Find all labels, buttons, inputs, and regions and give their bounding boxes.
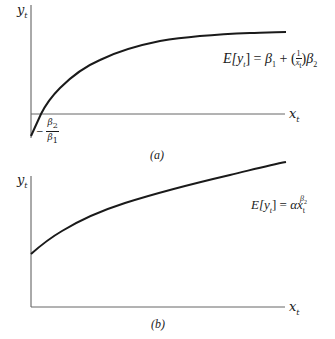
panel-b-y-axis-label: yt — [17, 172, 28, 190]
panel-a-equation: E[yt] = β1 + (1xt)β2 — [223, 50, 317, 70]
panel-b-caption: (b) — [151, 317, 165, 332]
panel-a-y-axis-label: yt — [17, 2, 28, 20]
panel-b-x-axis-label: xt — [289, 299, 300, 317]
panel-b-curve — [31, 162, 286, 254]
panel-a-x-axis-label: xt — [289, 106, 300, 124]
panel-a-intercept-label: − β2 β1 — [36, 117, 59, 146]
panel-b-equation: E[yt] = αxtβ2 — [251, 197, 312, 215]
panel-a-caption: (a) — [150, 148, 164, 163]
panel-a-curve — [31, 32, 286, 136]
